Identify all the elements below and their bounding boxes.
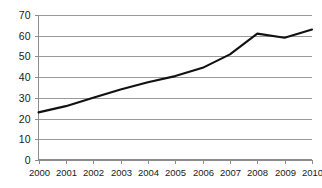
y-tick-label: 0 — [25, 154, 31, 166]
x-tick-label: 2005 — [165, 167, 186, 178]
x-tick-label: 2002 — [83, 167, 104, 178]
x-tick-label: 2009 — [275, 167, 296, 178]
x-tick-label: 2007 — [220, 167, 241, 178]
y-axis-labels-group: 010203040506070 — [19, 9, 31, 166]
x-tick-label: 2010 — [302, 167, 322, 178]
y-tick-label: 60 — [19, 30, 31, 42]
x-tick-label: 2000 — [29, 167, 50, 178]
y-tick-label: 70 — [19, 9, 31, 21]
y-tick-label: 20 — [19, 113, 31, 125]
x-tick-label: 2004 — [138, 167, 159, 178]
x-tick-label: 2001 — [56, 167, 77, 178]
chart-plot-area: 010203040506070 200020012002200320042005… — [0, 0, 322, 188]
x-tick-label: 2006 — [193, 167, 214, 178]
x-axis-labels-group: 2000200120022003200420052006200720082009… — [29, 167, 322, 178]
y-tick-label: 50 — [19, 50, 31, 62]
y-tick-label: 10 — [19, 133, 31, 145]
line-chart: 010203040506070 200020012002200320042005… — [0, 0, 322, 188]
y-tick-label: 30 — [19, 92, 31, 104]
gridlines-group — [39, 16, 313, 140]
y-tick-label: 40 — [19, 71, 31, 83]
data-series-line — [39, 30, 313, 113]
x-tick-label: 2008 — [247, 167, 268, 178]
x-tick-label: 2003 — [111, 167, 132, 178]
